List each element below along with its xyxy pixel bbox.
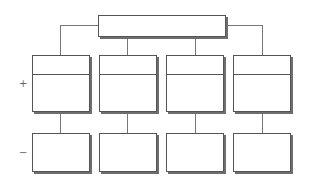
lower-box-4: [233, 133, 291, 172]
connector-root-right: [226, 25, 262, 26]
connector-right-drop: [262, 25, 263, 55]
connector-col-4: [262, 112, 263, 133]
upper-box-1: [32, 55, 90, 112]
connector-root-mid-1: [127, 37, 128, 55]
hierarchy-diagram: + −: [0, 0, 310, 185]
root-box: [98, 15, 226, 37]
connector-col-3: [195, 112, 196, 133]
upper-box-divider: [234, 74, 290, 75]
upper-box-4: [233, 55, 291, 112]
minus-sign-label: −: [19, 148, 27, 158]
upper-box-divider: [167, 74, 223, 75]
plus-sign-label: +: [19, 79, 27, 89]
lower-box-2: [99, 133, 157, 172]
upper-box-2: [99, 55, 157, 112]
connector-root-mid-2: [195, 37, 196, 55]
connector-col-1: [60, 112, 61, 133]
connector-left-drop: [60, 25, 61, 55]
connector-root-left: [60, 25, 98, 26]
lower-box-3: [166, 133, 224, 172]
upper-box-divider: [33, 74, 89, 75]
lower-box-1: [32, 133, 90, 172]
upper-box-3: [166, 55, 224, 112]
connector-col-2: [127, 112, 128, 133]
upper-box-divider: [100, 74, 156, 75]
